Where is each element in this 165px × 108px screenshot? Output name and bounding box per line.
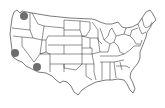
marker-california <box>11 49 19 57</box>
marker-arizona <box>33 63 41 71</box>
us-map-svg <box>0 0 165 108</box>
us-outline <box>10 10 156 95</box>
us-map <box>0 0 165 108</box>
marker-washington <box>20 12 28 20</box>
